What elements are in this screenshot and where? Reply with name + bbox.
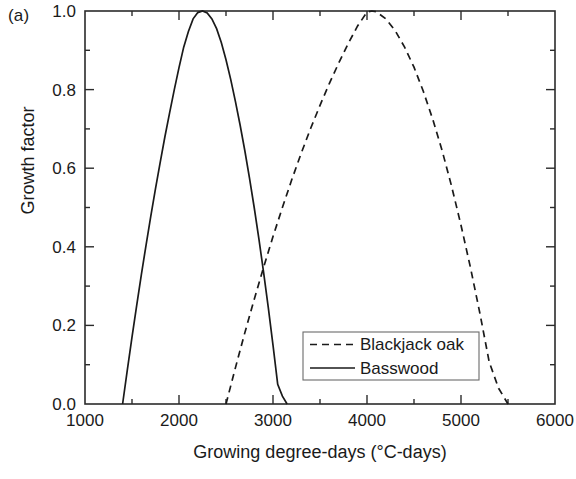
legend-label-basswood: Basswood: [360, 359, 438, 379]
legend-label-blackjack-oak: Blackjack oak: [360, 335, 464, 355]
series-line-basswood: [123, 11, 288, 404]
figure-panel-a: (a) Growth factor Growing degree-days (°…: [0, 0, 576, 479]
plot-canvas: [0, 0, 576, 479]
